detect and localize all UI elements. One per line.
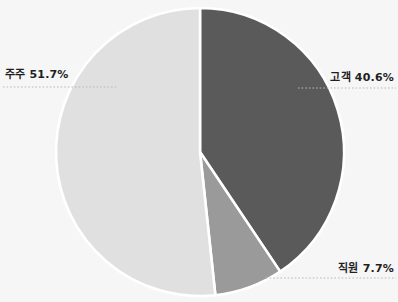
pie-chart-canvas (0, 0, 398, 302)
pie-slice-juju[interactable] (56, 8, 215, 296)
pie-chart-figure: 주주 51.7% 고객 40.6% 직원 7.7% (0, 0, 398, 302)
pie-label-gogaek: 고객 40.6% (330, 72, 394, 83)
pie-label-jigwon: 직원 7.7% (338, 263, 394, 274)
pie-label-juju: 주주 51.7% (5, 69, 69, 80)
